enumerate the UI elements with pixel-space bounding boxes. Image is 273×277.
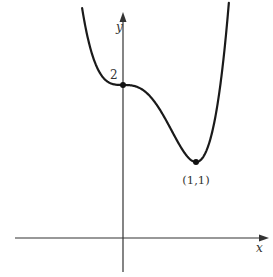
minimum-point-label: (1,1) xyxy=(182,173,209,187)
graph-svg: y x 2 (1,1) xyxy=(0,0,273,277)
graph-figure: y x 2 (1,1) xyxy=(0,0,273,277)
minimum-point xyxy=(193,159,199,165)
y-intercept-label: 2 xyxy=(110,68,118,82)
x-axis-label: x xyxy=(256,241,263,255)
function-curve xyxy=(82,3,229,162)
y-intercept-point xyxy=(120,82,126,88)
y-axis-label: y xyxy=(115,20,123,34)
